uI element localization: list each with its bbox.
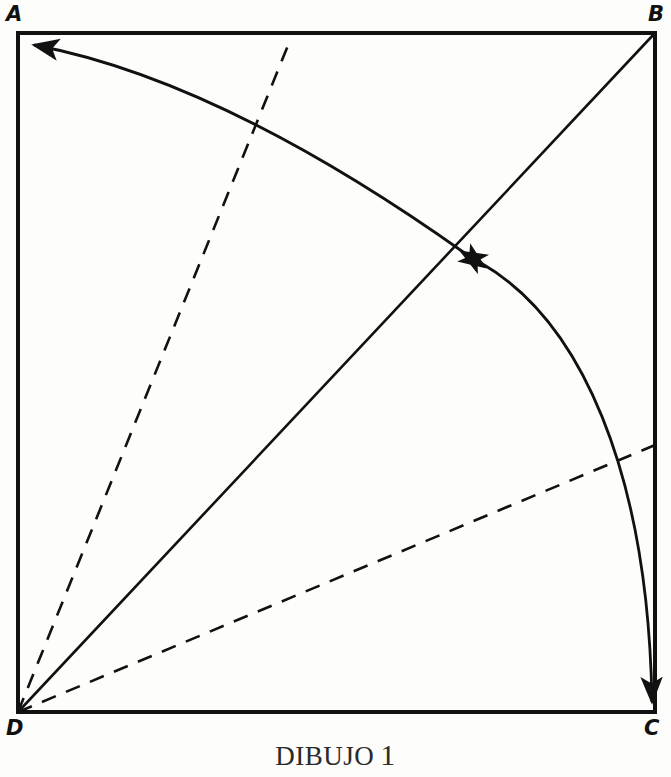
caption-number: 1 — [374, 738, 396, 771]
geometry-diagram — [0, 0, 671, 777]
vertex-label-d: D — [6, 718, 23, 739]
caption-text: DIBUJO — [275, 741, 374, 771]
arc-center-to-C — [481, 263, 652, 702]
arc-center-to-A — [34, 45, 466, 254]
dashed-ray-shallow — [18, 445, 655, 712]
figure-container: A B C D DIBUJO1 — [0, 0, 671, 777]
vertex-label-c: C — [644, 718, 659, 739]
diagonal-DB — [18, 33, 655, 712]
vertex-label-a: A — [6, 4, 22, 25]
dashed-ray-steep — [18, 38, 291, 712]
figure-caption: DIBUJO1 — [0, 738, 671, 772]
vertex-label-b: B — [648, 4, 664, 25]
